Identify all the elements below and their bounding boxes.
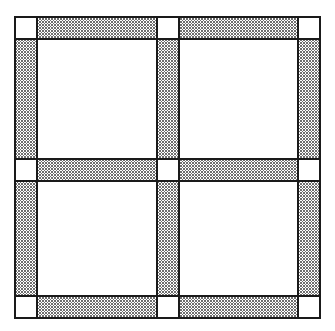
vertical-beam-band (157, 39, 179, 159)
horizontal-beam-band (37, 296, 157, 318)
column-square (15, 159, 37, 181)
bay-panel (37, 39, 157, 159)
column-square (298, 17, 320, 39)
column-square (298, 159, 320, 181)
column-square (157, 17, 179, 39)
vertical-beam-band (298, 181, 320, 296)
diagram-svg-root: Structural grid plan Orthogonal framing … (0, 0, 335, 331)
column-square (15, 17, 37, 39)
structural-grid-diagram: Structural grid plan Orthogonal framing … (0, 0, 335, 331)
bay-panel (179, 39, 298, 159)
vertical-beam-band (15, 39, 37, 159)
horizontal-beam-band (37, 17, 157, 39)
horizontal-beam-band (179, 159, 298, 181)
column-square (157, 159, 179, 181)
bay-panel (179, 181, 298, 296)
vertical-beam-band (15, 181, 37, 296)
vertical-beam-band (298, 39, 320, 159)
column-square (298, 296, 320, 318)
column-square (157, 296, 179, 318)
column-square (15, 296, 37, 318)
horizontal-beam-band (37, 159, 157, 181)
vertical-beam-band (157, 181, 179, 296)
horizontal-beam-band (179, 17, 298, 39)
bay-panel (37, 181, 157, 296)
horizontal-beam-band (179, 296, 298, 318)
